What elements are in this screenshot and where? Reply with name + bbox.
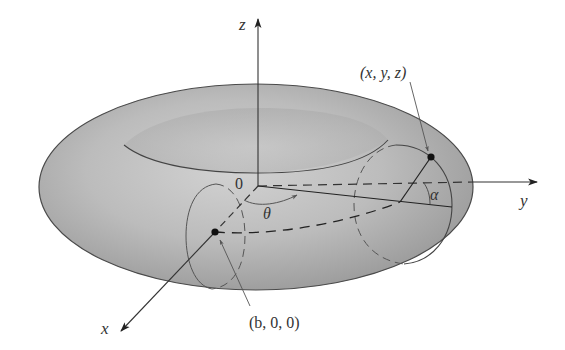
point-xyz-label: (x, y, z)	[360, 64, 406, 82]
origin-label: 0	[235, 175, 243, 192]
point-xyz	[427, 153, 434, 160]
torus-diagram: z y x 0 θ α (b, 0, 0) (x, y, z)	[0, 0, 565, 350]
point-b00-label: (b, 0, 0)	[249, 314, 300, 332]
y-axis-label: y	[518, 191, 528, 210]
x-axis-label: x	[100, 319, 109, 338]
z-axis-label: z	[238, 15, 246, 34]
point-b00	[211, 228, 218, 235]
theta-label: θ	[263, 205, 271, 222]
alpha-label: α	[430, 186, 439, 203]
